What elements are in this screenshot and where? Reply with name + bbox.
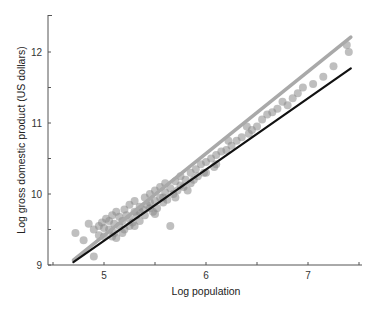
fitted-line: [73, 37, 350, 260]
data-point: [238, 133, 246, 141]
data-point: [345, 48, 353, 56]
data-point: [171, 194, 179, 202]
y-tick-label: 11: [32, 118, 43, 129]
data-point: [284, 101, 292, 109]
data-point: [319, 73, 327, 81]
x-tick-label: 7: [305, 270, 311, 281]
data-point: [166, 222, 174, 230]
x-axis-label: Log population: [172, 285, 241, 297]
scatter-chart: 9101112567 Log population Log gross dome…: [0, 0, 377, 313]
y-tick-label: 9: [36, 260, 42, 271]
regression-lines: [73, 37, 350, 262]
data-point: [184, 186, 192, 194]
data-point: [151, 210, 159, 218]
data-point: [71, 229, 79, 237]
data-point: [131, 222, 139, 230]
y-tick-label: 12: [31, 47, 43, 58]
data-point: [100, 224, 108, 232]
data-point: [309, 80, 317, 88]
x-tick-label: 6: [203, 270, 209, 281]
data-point: [273, 105, 281, 113]
y-axis-label: Log gross domestic product (US dollars): [15, 46, 27, 233]
data-point: [80, 236, 88, 244]
data-point: [299, 84, 307, 92]
x-tick-label: 5: [101, 270, 107, 281]
data-point: [253, 123, 261, 131]
data-point: [330, 62, 338, 70]
y-tick-label: 10: [31, 189, 43, 200]
reference-line: [73, 68, 350, 262]
data-point: [90, 252, 98, 260]
